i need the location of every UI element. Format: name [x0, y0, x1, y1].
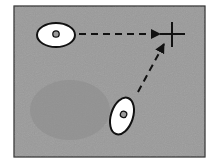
left-ellipse [37, 23, 75, 47]
diagram-canvas [0, 0, 218, 164]
left-ellipse-dot [53, 31, 59, 37]
dark-smudge [30, 80, 110, 140]
